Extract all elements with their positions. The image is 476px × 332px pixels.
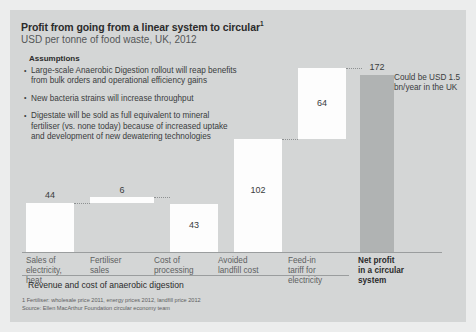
cat-line: Feed-in: [288, 256, 350, 266]
bracket-label: Revenue and cost of anaerobic digestion: [28, 280, 184, 290]
connector-line: [74, 203, 90, 204]
category-label-fertiliser-sales: Fertiliser sales: [90, 256, 150, 276]
category-label-avoided-landfill-cost: Avoided landfill cost: [218, 256, 282, 276]
bar-value-sales-electricity: 44: [26, 190, 74, 200]
cat-line: Net profit: [358, 256, 428, 266]
bar-value-fertiliser-sales: 6: [90, 185, 154, 195]
bar-value-cost-of-processing: 43: [170, 220, 218, 230]
category-label-feed-in-tariff: Feed-in tariff for electricity: [288, 256, 350, 286]
cat-line: system: [358, 276, 428, 286]
bar-sales-electricity[interactable]: [26, 203, 74, 252]
bar-net-profit[interactable]: [360, 75, 394, 252]
category-label-cost-of-processing: Cost of processing: [154, 256, 216, 276]
cat-line: Sales of: [26, 256, 86, 266]
category-label-net-profit: Net profit in a circular system: [358, 256, 428, 286]
cat-line: Fertiliser: [90, 256, 150, 266]
cat-line: in a circular: [358, 266, 428, 276]
callout-annotation: Could be USD 1.5 bn/year in the UK: [394, 73, 474, 93]
baseline-axis: [22, 252, 442, 253]
revenue-cost-bracket: [22, 275, 349, 276]
bar-value-avoided-landfill-cost: 102: [234, 185, 282, 195]
bar-value-feed-in-tariff: 64: [298, 98, 346, 108]
bar-avoided-landfill-cost[interactable]: [234, 139, 282, 252]
bar-fertiliser-sales[interactable]: [90, 197, 154, 203]
waterfall-plot: 44 6 43 102 64 172 Co: [10, 10, 466, 322]
footnote-source: Source: Ellen MacArthur Foundation circu…: [22, 305, 170, 312]
chart-page: Profit from going from a linear system t…: [0, 0, 476, 332]
cat-line: electricity: [288, 276, 350, 286]
chart-panel: Profit from going from a linear system t…: [10, 10, 466, 322]
bar-value-net-profit: 172: [360, 62, 394, 72]
cat-line: Avoided: [218, 256, 282, 266]
cat-line: Cost of: [154, 256, 216, 266]
connector-line: [282, 139, 298, 140]
connector-line: [154, 197, 170, 198]
footnote-1: 1 Fertiliser: wholesale price 2011, ener…: [22, 297, 201, 304]
